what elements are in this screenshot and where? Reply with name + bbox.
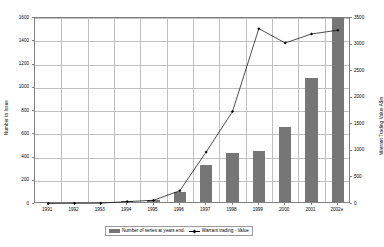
right-axis-title: Warrant Trading Value A$m <box>379 97 384 155</box>
chart-legend: Number of series at years end. Warrant t… <box>105 226 253 236</box>
left-tickmark <box>32 203 34 204</box>
right-tick-label: 3000 <box>354 41 376 46</box>
line-marker <box>336 29 339 32</box>
legend-label-bars: Number of series at years end. <box>122 228 185 234</box>
left-tick-label: 800 <box>7 108 29 113</box>
line-marker <box>152 199 155 202</box>
right-tick-label: 1500 <box>354 121 376 126</box>
right-tick-label: 500 <box>354 174 376 179</box>
plot-area <box>34 17 350 203</box>
left-tick-label: 1600 <box>7 15 29 20</box>
legend-item-line: Warrant trading - Value <box>189 228 249 234</box>
bar-swatch-icon <box>109 229 120 233</box>
line-marker <box>310 32 313 35</box>
line-marker <box>126 200 129 203</box>
left-axis-title: Number in Issue <box>4 100 9 135</box>
left-tick-label: 1000 <box>7 84 29 89</box>
left-tick-label: 0 <box>7 201 29 206</box>
right-tick-label: 0 <box>354 201 376 206</box>
left-tick-label: 600 <box>7 131 29 136</box>
left-tick-label: 1400 <box>7 38 29 43</box>
right-tick-label: 2500 <box>354 68 376 73</box>
right-tick-label: 3500 <box>354 15 376 20</box>
right-tick-label: 2000 <box>354 94 376 99</box>
line-marker <box>257 27 260 30</box>
left-tick-label: 200 <box>7 177 29 182</box>
x-tick-label: 2002e <box>322 207 352 212</box>
line-marker-swatch-icon <box>189 229 200 234</box>
left-tick-label: 1200 <box>7 61 29 66</box>
legend-item-bars: Number of series at years end. <box>109 228 185 234</box>
line-series <box>35 18 351 204</box>
right-tick-label: 1000 <box>354 147 376 152</box>
left-tick-label: 400 <box>7 154 29 159</box>
line-marker <box>284 41 287 44</box>
legend-label-line: Warrant trading - Value <box>202 228 249 234</box>
